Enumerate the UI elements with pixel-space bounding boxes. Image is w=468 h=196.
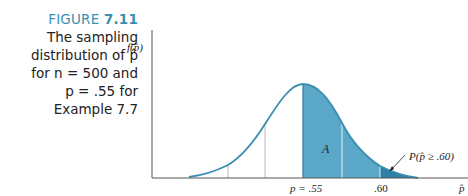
x-tick-60: .60: [374, 182, 388, 194]
y-axis-label: f(p̂): [127, 41, 143, 54]
chart: f(p̂) A P(p̂ ≥ .60) p = .55 .60 p̂: [0, 0, 468, 196]
tail-prob-label: P(p̂ ≥ .60): [408, 150, 454, 163]
x-axis-label: p̂: [458, 182, 465, 194]
region-a-label: A: [321, 142, 330, 156]
x-tick-mean: p = .55: [289, 182, 323, 194]
